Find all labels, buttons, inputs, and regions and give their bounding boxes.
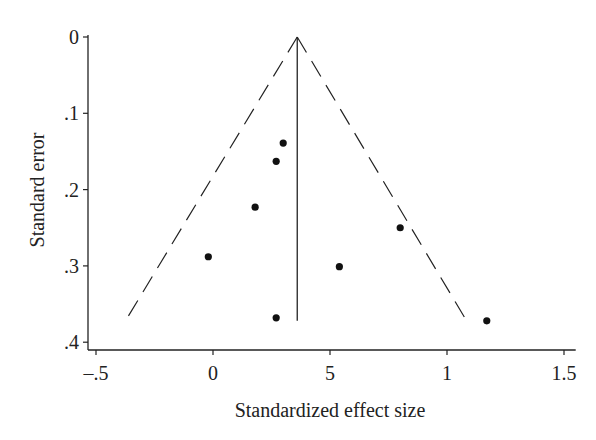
data-point bbox=[336, 263, 343, 270]
y-tick-label: .4 bbox=[64, 331, 79, 353]
funnel-left-limit bbox=[126, 37, 297, 319]
x-tick-label: 5 bbox=[325, 362, 335, 384]
y-tick-label: .3 bbox=[64, 255, 79, 277]
data-point bbox=[280, 139, 287, 146]
funnel-lines bbox=[126, 37, 465, 321]
data-point bbox=[252, 204, 259, 211]
x-tick-label: 1.5 bbox=[552, 362, 577, 384]
data-point bbox=[273, 314, 280, 321]
y-axis-title: Standard error bbox=[26, 132, 48, 247]
data-point bbox=[273, 158, 280, 165]
y-tick-label: .2 bbox=[64, 179, 79, 201]
data-point bbox=[483, 317, 490, 324]
data-point bbox=[397, 224, 404, 231]
funnel-plot: 0.1.2.3.4–.50511.5 Standardized effect s… bbox=[0, 0, 596, 440]
x-tick-label: 0 bbox=[208, 362, 218, 384]
x-tick-label: –.5 bbox=[83, 362, 109, 384]
funnel-right-limit bbox=[297, 37, 465, 319]
data-points bbox=[205, 139, 491, 324]
x-axis-title: Standardized effect size bbox=[235, 399, 426, 421]
data-point bbox=[205, 253, 212, 260]
x-tick-label: 1 bbox=[442, 362, 452, 384]
y-tick-label: 0 bbox=[69, 26, 79, 48]
y-tick-label: .1 bbox=[64, 102, 79, 124]
axes: 0.1.2.3.4–.50511.5 bbox=[64, 26, 577, 384]
